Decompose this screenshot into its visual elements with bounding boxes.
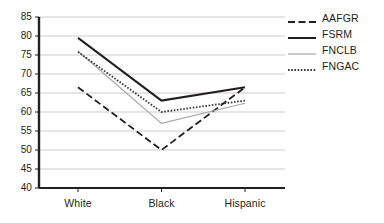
legend-label-fnclb: FNCLB [322,45,357,55]
line-chart: 85807570656055504540 WhiteBlackHispanic … [0,0,384,223]
legend-item: FSRM [288,26,359,42]
series-line-fsrm [78,38,245,101]
legend-label-fngac: FNGAC [322,61,359,71]
legend-item: FNGAC [288,58,359,74]
legend-swatch-fngac [288,61,316,71]
y-tick-label: 50 [8,144,32,155]
legend-swatch-fnclb [288,45,316,55]
legend-label-aafgr: AAFGR [322,13,359,23]
chart-legend: AAFGR FSRM FNCLB FNGAC [288,10,359,74]
y-tick-label: 40 [8,182,32,193]
series-line-aafgr [78,87,245,150]
y-tick-label: 55 [8,125,32,136]
x-tick-label: White [43,197,113,209]
y-tick-label: 75 [8,49,32,60]
y-tick-label: 85 [8,11,32,22]
legend-item: FNCLB [288,42,359,58]
y-tick-label: 65 [8,87,32,98]
y-tick-label: 45 [8,163,32,174]
legend-item: AAFGR [288,10,359,26]
x-tick-label: Hispanic [210,197,280,209]
series-line-fngac [78,52,245,112]
y-tick-label: 70 [8,68,32,79]
axis-lines [39,17,285,188]
legend-swatch-aafgr [288,13,316,23]
y-tick-label: 60 [8,106,32,117]
y-tick-label: 80 [8,30,32,41]
gridlines [39,17,285,169]
legend-label-fsrm: FSRM [322,29,352,39]
legend-swatch-fsrm [288,29,316,39]
x-tick-label: Black [127,197,197,209]
